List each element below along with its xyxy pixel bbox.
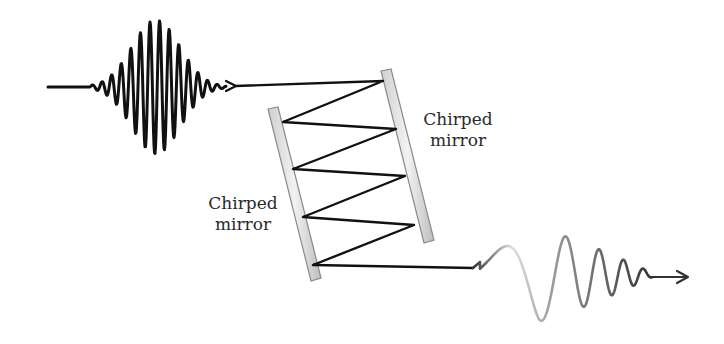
right-mirror-label: Chirped mirror bbox=[413, 109, 503, 151]
output-pulse bbox=[473, 236, 688, 320]
input-arrow-icon bbox=[226, 81, 236, 91]
left-mirror-label: Chirped mirror bbox=[198, 193, 288, 235]
chirped-mirror-diagram bbox=[0, 0, 724, 344]
right-mirror-label-line1: Chirped bbox=[413, 109, 503, 130]
right-mirror bbox=[381, 69, 434, 243]
input-pulse bbox=[48, 21, 236, 154]
left-mirror-label-line2: mirror bbox=[198, 214, 288, 235]
left-mirror-label-line1: Chirped bbox=[198, 193, 288, 214]
right-mirror-label-line2: mirror bbox=[413, 130, 503, 151]
